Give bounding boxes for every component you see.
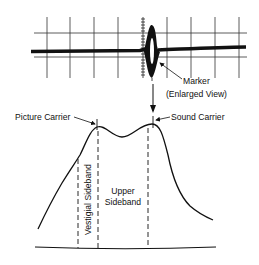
upper-sideband-label-line1: Upper	[111, 186, 135, 196]
upper-sideband-label-line2: Sideband	[105, 197, 142, 207]
scope-trace	[31, 47, 246, 52]
vestigial-sideband-label: Vestigial Sideband	[83, 164, 93, 235]
marker-sublabel: (Enlarged View)	[166, 89, 227, 99]
sound-carrier-label: Sound Carrier	[171, 112, 225, 122]
marker-leader-line	[160, 63, 182, 79]
picture-carrier-label: Picture Carrier	[15, 112, 71, 122]
marker-label: Marker	[183, 76, 210, 86]
if-response-curve	[38, 124, 213, 229]
down-arrowhead-icon	[150, 105, 156, 113]
oscilloscope-display	[31, 17, 247, 81]
frequency-baseline	[35, 247, 216, 249]
sound-carrier-leader	[156, 117, 170, 120]
tv-if-response-diagram: Marker (Enlarged View) Picture Carrier S…	[0, 0, 259, 265]
center-graduated-axis	[141, 17, 145, 78]
picture-carrier-leader	[74, 117, 95, 124]
